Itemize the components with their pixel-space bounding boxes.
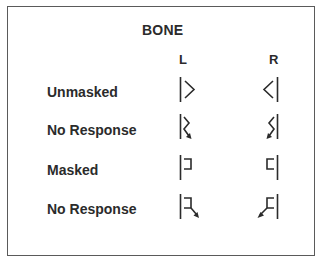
bone-masked-left-icon	[170, 154, 210, 194]
row-label-masked-no-response: No Response	[47, 201, 136, 217]
bone-unmasked-left-icon	[170, 74, 210, 114]
row-label-masked: Masked	[47, 162, 98, 178]
column-header-left: L	[179, 52, 187, 67]
row-label-unmasked-no-response: No Response	[47, 122, 136, 138]
row-label-unmasked: Unmasked	[47, 84, 118, 100]
bone-unmasked-no-response-right-icon	[250, 114, 290, 154]
bone-masked-right-icon	[250, 154, 290, 194]
bone-unmasked-no-response-left-icon	[170, 114, 210, 154]
bone-unmasked-right-icon	[250, 74, 290, 114]
bone-masked-no-response-left-icon	[170, 193, 210, 233]
legend-title-text: BONE	[142, 22, 183, 38]
bone-masked-no-response-right-icon	[250, 193, 290, 233]
column-header-right: R	[269, 52, 278, 67]
